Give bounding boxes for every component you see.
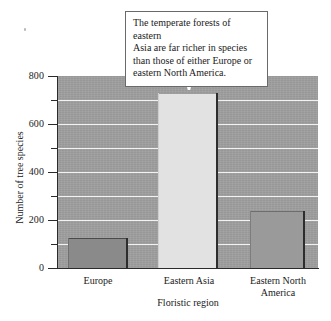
bar-eastern-asia-left-edge xyxy=(158,93,159,268)
x-label-europe: Europe xyxy=(48,275,148,287)
y-tick-800 xyxy=(48,76,58,77)
y-tick-700 xyxy=(51,100,58,101)
bar-eastern-north-america xyxy=(250,211,305,268)
bar-eastern-asia-face xyxy=(158,93,218,268)
y-tick-400 xyxy=(48,172,58,173)
y-axis-title: Number of tree species xyxy=(14,108,25,248)
callout-line-4: eastern North America. xyxy=(133,67,261,80)
bar-europe-face xyxy=(68,238,128,268)
y-tick-label-800: 800 xyxy=(4,71,44,81)
x-label-eastern-asia: Eastern Asia xyxy=(139,275,239,287)
x-label-eastern-north-america-line1: Eastern North xyxy=(228,275,328,287)
scan-artifact-speck xyxy=(24,28,26,31)
y-tick-0 xyxy=(48,268,58,269)
callout-line-3: than those of either Europe or xyxy=(133,55,261,68)
x-label-eastern-north-america-line2: America xyxy=(228,287,328,299)
y-tick-600 xyxy=(48,124,58,125)
bar-eastern-north-america-right-edge xyxy=(303,211,305,268)
y-tick-label-0: 0 xyxy=(4,263,44,273)
callout-line-1: The temperate forests of eastern xyxy=(133,17,261,42)
bar-eastern-asia-right-edge xyxy=(216,93,218,268)
bar-europe xyxy=(68,238,128,268)
callout-line-2: Asia are far richer in species xyxy=(133,42,261,55)
bar-europe-left-edge xyxy=(68,238,69,268)
y-tick-100 xyxy=(51,244,58,245)
bar-europe-top-edge xyxy=(68,238,128,239)
plot-area xyxy=(58,76,318,268)
bar-eastern-north-america-left-edge xyxy=(250,211,251,268)
y-tick-200 xyxy=(48,220,58,221)
bar-eastern-north-america-top-edge xyxy=(250,211,305,212)
y-tick-300 xyxy=(51,196,58,197)
bar-eastern-asia xyxy=(158,93,218,268)
bar-eastern-north-america-face xyxy=(250,211,305,268)
y-tick-500 xyxy=(51,148,58,149)
annotation-callout: The temperate forests of eastern Asia ar… xyxy=(125,11,268,87)
bar-chart-figure: 800 600 400 200 0 Number of tree species… xyxy=(0,0,331,321)
x-axis-line xyxy=(48,268,319,269)
bar-europe-right-edge xyxy=(126,238,128,268)
bar-eastern-asia-top-edge xyxy=(158,93,218,94)
